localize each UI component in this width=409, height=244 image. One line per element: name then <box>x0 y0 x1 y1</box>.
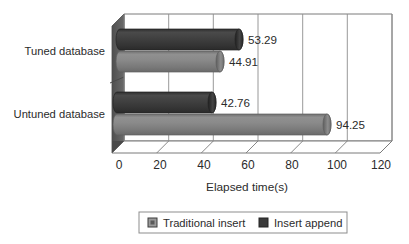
x-tick-label-100: 100 <box>327 158 347 172</box>
value-label-tuned-insert-append: 53.29 <box>248 33 277 46</box>
x-tick-label-40: 40 <box>197 158 211 172</box>
legend: Traditional insert Insert append <box>139 212 347 233</box>
x-axis-title: Elapsed time(s) <box>206 180 288 194</box>
x-tick-label-120: 120 <box>371 158 391 172</box>
legend-swatch-insert-append <box>259 218 268 227</box>
category-label-tuned-database: Tuned database <box>25 45 105 57</box>
x-tick-label-20: 20 <box>153 158 167 172</box>
legend-swatch-inner-traditional-insert <box>151 221 155 225</box>
bar-untuned-traditional-insert <box>113 114 331 135</box>
category-label-untuned-database: Untuned database <box>14 108 105 120</box>
value-label-untuned-insert-append: 42.76 <box>221 96 250 109</box>
bar-chart: 53.29 44.91 42.76 94.25 Tuned database U… <box>0 0 409 244</box>
bar-tuned-insert-append <box>116 29 243 50</box>
legend-label-traditional-insert: Traditional insert <box>163 217 246 229</box>
legend-item-traditional-insert[interactable]: Traditional insert <box>148 217 246 229</box>
x-tick-label-60: 60 <box>241 158 255 172</box>
value-label-tuned-traditional-insert: 44.91 <box>229 55 258 68</box>
legend-label-insert-append: Insert append <box>274 217 342 229</box>
value-label-untuned-traditional-insert: 94.25 <box>336 118 365 131</box>
bar-tuned-traditional-insert <box>116 51 224 72</box>
bar-untuned-insert-append <box>113 92 216 113</box>
x-tick-label-0: 0 <box>116 158 123 172</box>
chart-canvas: 53.29 44.91 42.76 94.25 Tuned database U… <box>0 0 409 244</box>
x-tick-label-80: 80 <box>285 158 299 172</box>
